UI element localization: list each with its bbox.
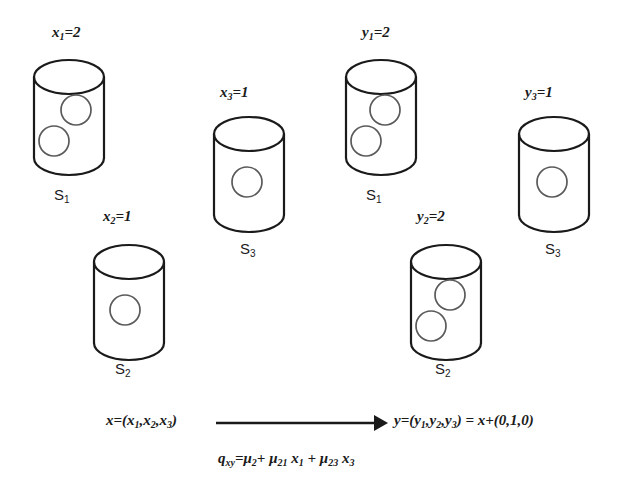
bin-label-y-s3: S3 (545, 240, 561, 257)
count-value-x2: =1 (116, 208, 132, 224)
lv-head: x=(x (106, 412, 135, 428)
count-var-x2: x (103, 208, 111, 224)
count-value-y2: =2 (429, 208, 445, 224)
count-sub-x3: 3 (228, 91, 233, 102)
lv-mid1: ,x (140, 412, 151, 428)
bin-label-x-s3: S3 (240, 240, 256, 257)
count-label-x3: x3=1 (220, 84, 249, 101)
cylinder-x-s3[interactable] (208, 112, 290, 237)
bin-label-x-s2: S2 (115, 360, 131, 377)
bin-letter: S (115, 360, 125, 377)
rate-var2-sub: 3 (349, 457, 354, 468)
cylinder-y-s2[interactable] (405, 240, 487, 365)
count-value-y3: =1 (537, 84, 553, 100)
count-value-y1: =2 (374, 24, 390, 40)
ball (351, 126, 381, 156)
bin-label-y-s2: S2 (435, 360, 451, 377)
lv-sub2: 2 (151, 419, 156, 430)
ball (370, 95, 400, 125)
rv-sub1: 1 (421, 419, 426, 430)
ball (416, 311, 446, 341)
count-var-x1: x (52, 24, 60, 40)
count-value-x3: =1 (233, 84, 249, 100)
lv-tail: ) (172, 412, 177, 428)
bin-letter: S (240, 240, 250, 257)
bin-index: 2 (125, 368, 131, 379)
ball (39, 126, 69, 156)
count-sub-y2: 2 (424, 215, 429, 226)
figure-canvas: x1=2 S1 x2=1 (0, 0, 622, 503)
rv-sub3: 3 (452, 419, 457, 430)
bin-index: 2 (445, 368, 451, 379)
equation-transition-rate: qxy=μ2+ μ21 x1 + μ23 x3 (218, 450, 354, 467)
count-label-y3: y3=1 (525, 84, 553, 101)
rate-q-sub: xy (226, 457, 235, 468)
count-var-y2: y (417, 208, 424, 224)
count-var-x3: x (220, 84, 228, 100)
count-label-x2: x2=1 (103, 208, 132, 225)
cylinder-x-s2[interactable] (88, 240, 170, 365)
cylinder-x-s1[interactable] (28, 55, 110, 180)
bin-letter: S (435, 360, 445, 377)
rate-eq-mu: =μ (235, 450, 252, 466)
ball (435, 280, 465, 310)
count-sub-y3: 3 (532, 91, 537, 102)
bin-label-y-s1: S1 (366, 186, 382, 203)
rate-var1-sub: 1 (299, 457, 304, 468)
rate-plus2: + μ (304, 450, 328, 466)
count-var-y3: y (525, 84, 532, 100)
rate-var2: x (338, 450, 349, 466)
bin-index: 3 (555, 248, 561, 259)
bin-index: 3 (250, 248, 256, 259)
bin-index: 1 (64, 194, 70, 205)
bin-letter: S (366, 186, 376, 203)
rv-mid1: ,y (426, 412, 436, 428)
count-label-y1: y1=2 (362, 24, 390, 41)
transition-arrow (216, 412, 388, 432)
lv-sub1: 1 (135, 419, 140, 430)
rv-head: y=(y (394, 412, 421, 428)
equation-left-vector: x=(x1,x2,x3) (106, 412, 177, 429)
count-label-x1: x1=2 (52, 24, 81, 41)
bin-label-x-s1: S1 (54, 186, 70, 203)
count-sub-y1: 1 (369, 31, 374, 42)
lv-mid2: ,x (156, 412, 167, 428)
count-var-y1: y (362, 24, 369, 40)
rate-q: q (218, 450, 226, 466)
cylinder-y-s3[interactable] (513, 112, 595, 237)
count-sub-x1: 1 (60, 31, 65, 42)
ball (537, 167, 567, 197)
rate-var1: x (287, 450, 298, 466)
rv-sub2: 2 (436, 419, 441, 430)
rate-mu1-sub: 2 (252, 457, 257, 468)
rv-mid2: ,y (441, 412, 451, 428)
equation-right-vector: y=(y1,y2,y3) = x+(0,1,0) (394, 412, 534, 429)
cylinder-y-s1[interactable] (340, 55, 422, 180)
count-value-x1: =2 (65, 24, 81, 40)
rate-mu2-sub: 21 (277, 457, 287, 468)
count-sub-x2: 2 (111, 215, 116, 226)
ball (61, 95, 91, 125)
rate-mu3-sub: 23 (328, 457, 338, 468)
ball (232, 167, 262, 197)
bin-index: 1 (376, 194, 382, 205)
bin-letter: S (54, 186, 64, 203)
lv-sub3: 3 (167, 419, 172, 430)
bin-letter: S (545, 240, 555, 257)
rate-plus1: + μ (257, 450, 278, 466)
rv-tail: ) = x+(0,1,0) (457, 412, 534, 428)
ball (110, 295, 140, 325)
count-label-y2: y2=2 (417, 208, 445, 225)
